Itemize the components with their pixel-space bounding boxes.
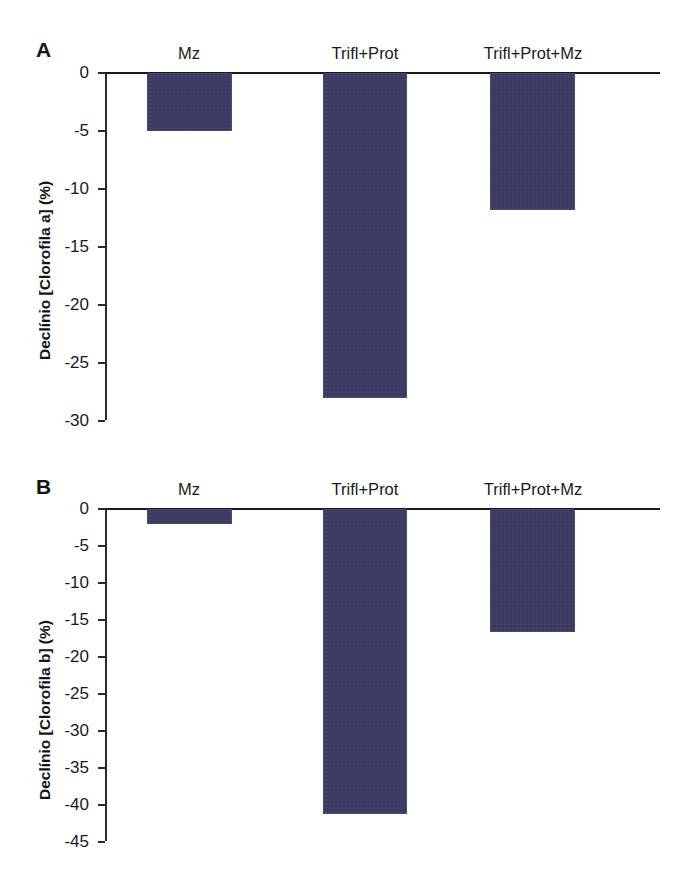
panel-b-plot-area: 0 -5 -10 -15 -20 -25 -30 -35	[105, 508, 660, 841]
panel-a-tick-label-6: -30	[64, 412, 89, 429]
panel-b-tick-label-5: -25	[64, 685, 89, 702]
bar-b-trifl-prot[interactable]	[323, 509, 407, 814]
panel-b-category-label-trifl-prot-mz: Trifl+Prot+Mz	[484, 480, 582, 499]
panel-b-tick-label-9: -45	[64, 833, 89, 850]
panel-b-tick-8: -40	[98, 804, 105, 806]
figure-bottom-margin	[0, 875, 687, 891]
panel-a-plot-area: 0 -5 -10 -15 -20 -25 -30	[105, 72, 660, 420]
panel-b-tick-label-7: -35	[64, 759, 89, 776]
panel-b-tick-3: -15	[98, 619, 105, 621]
bar-b-trifl-prot-mz[interactable]	[490, 509, 575, 632]
panel-a-tick-label-5: -25	[64, 354, 89, 371]
panel-b-tick-6: -30	[98, 730, 105, 732]
panel-a-tick-label-2: -10	[64, 180, 89, 197]
panel-a-tick-1: -5	[98, 130, 105, 132]
panel-b-tick-label-8: -40	[64, 796, 89, 813]
panel-a-y-axis-title: Declínio [Clorofila a] (%)	[36, 181, 54, 360]
panel-b-tick-5: -25	[98, 693, 105, 695]
panel-b-tick-7: -35	[98, 767, 105, 769]
bar-a-trifl-prot[interactable]	[323, 73, 407, 398]
panel-b-tick-4: -20	[98, 656, 105, 658]
panel-a-tick-label-0: 0	[80, 64, 89, 81]
panel-a-tick-5: -25	[98, 362, 105, 364]
bar-a-mz[interactable]	[147, 73, 232, 131]
panel-a-letter: A	[36, 38, 51, 62]
bar-b-mz[interactable]	[147, 509, 232, 524]
panel-b-y-axis-title: Declínio [Clorofila b] (%)	[36, 620, 54, 800]
panel-b-tick-label-1: -5	[74, 537, 89, 554]
panel-b-category-label-mz: Mz	[178, 480, 200, 499]
panel-a-tick-6: -30	[98, 420, 105, 422]
panel-b: B Declínio [Clorofila b] (%) 0 -5 -10 -1…	[0, 455, 687, 875]
figure-canvas: A Declínio [Clorofila a] (%) 0 -5 -10 -1…	[0, 0, 687, 891]
panel-a-tick-label-3: -15	[64, 238, 89, 255]
panel-b-tick-2: -10	[98, 582, 105, 584]
panel-a: A Declínio [Clorofila a] (%) 0 -5 -10 -1…	[0, 20, 687, 450]
panel-a-tick-4: -20	[98, 304, 105, 306]
panel-a-y-axis-line	[105, 72, 107, 420]
panel-b-tick-1: -5	[98, 545, 105, 547]
panel-a-category-label-trifl-prot: Trifl+Prot	[332, 44, 399, 63]
panel-a-tick-label-1: -5	[74, 122, 89, 139]
panel-b-tick-label-4: -20	[64, 648, 89, 665]
panel-b-tick-label-0: 0	[80, 500, 89, 517]
panel-b-category-label-trifl-prot: Trifl+Prot	[332, 480, 399, 499]
panel-b-tick-0: 0	[98, 508, 105, 510]
panel-b-y-axis-line	[105, 508, 107, 841]
panel-a-category-label-mz: Mz	[178, 44, 200, 63]
panel-b-tick-label-2: -10	[64, 574, 89, 591]
panel-b-tick-label-6: -30	[64, 722, 89, 739]
panel-a-tick-2: -10	[98, 188, 105, 190]
panel-b-tick-label-3: -15	[64, 611, 89, 628]
bar-a-trifl-prot-mz[interactable]	[490, 73, 575, 210]
panel-b-tick-9: -45	[98, 841, 105, 843]
panel-a-tick-label-4: -20	[64, 296, 89, 313]
panel-a-category-label-trifl-prot-mz: Trifl+Prot+Mz	[484, 44, 582, 63]
panel-a-tick-0: 0	[98, 72, 105, 74]
panel-b-letter: B	[36, 475, 51, 499]
panel-a-tick-3: -15	[98, 246, 105, 248]
